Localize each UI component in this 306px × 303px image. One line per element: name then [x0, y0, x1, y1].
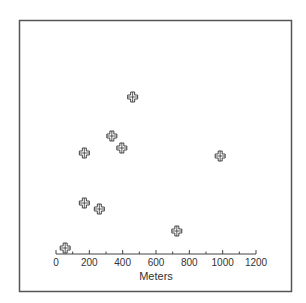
- scatter-chart: 020040060080010001200 Meters: [0, 0, 306, 303]
- x-tick-label: 1000: [212, 257, 235, 268]
- x-tick-label: 1200: [245, 257, 268, 268]
- x-tick-label: 0: [53, 257, 59, 268]
- x-axis-title: Meters: [139, 270, 173, 282]
- x-tick-label: 400: [114, 257, 131, 268]
- x-tick-label: 800: [181, 257, 198, 268]
- x-tick-label: 200: [81, 257, 98, 268]
- x-tick-label: 600: [148, 257, 165, 268]
